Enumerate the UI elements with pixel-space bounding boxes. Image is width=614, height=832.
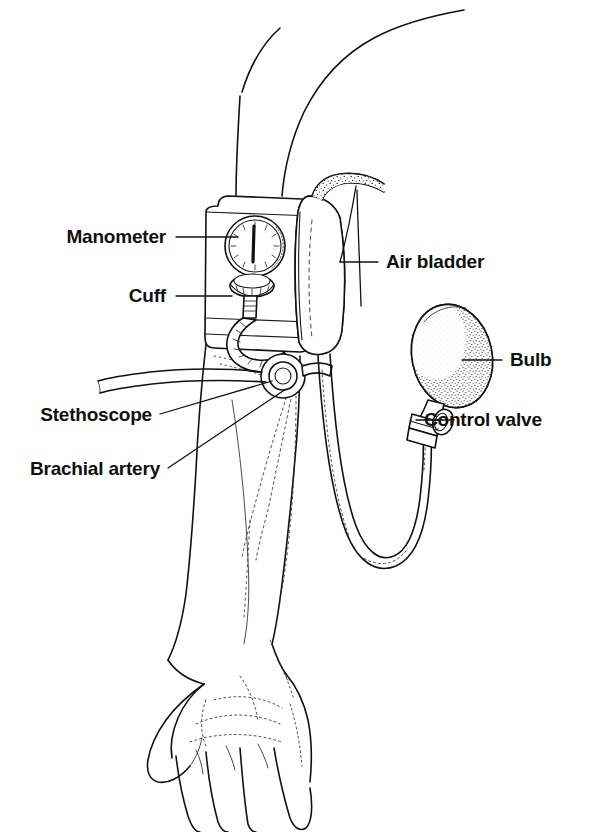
connector-tube bbox=[318, 354, 431, 568]
leader-air-bladder-stem bbox=[340, 186, 356, 262]
brachial-vessels bbox=[242, 392, 296, 618]
air-bladder-tube bbox=[295, 173, 384, 366]
stethoscope-tubing bbox=[98, 369, 266, 393]
hand bbox=[147, 640, 311, 832]
label-air-bladder: Air bladder bbox=[386, 251, 485, 272]
label-cuff: Cuff bbox=[129, 285, 167, 306]
label-bulb: Bulb bbox=[510, 349, 551, 370]
label-brachial-artery: Brachial artery bbox=[30, 458, 161, 479]
blood-pressure-diagram: Manometer Cuff Stethoscope Brachial arte… bbox=[0, 0, 614, 832]
label-manometer: Manometer bbox=[66, 226, 166, 247]
leader-air-bladder-drop bbox=[357, 190, 361, 306]
label-control-valve: Control valve bbox=[424, 409, 542, 430]
label-stethoscope: Stethoscope bbox=[40, 404, 152, 425]
